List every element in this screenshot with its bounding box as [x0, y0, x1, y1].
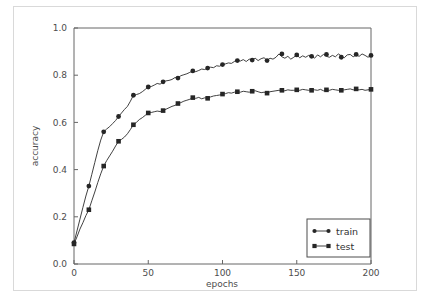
- legend-marker-test-right: [326, 244, 330, 248]
- data-point-marker: [86, 184, 91, 189]
- data-point-marker: [146, 111, 151, 116]
- data-point-marker: [101, 129, 106, 134]
- data-point-marker: [309, 54, 314, 59]
- data-point-marker: [265, 91, 270, 96]
- x-tick-label: 100: [214, 268, 231, 278]
- data-point-marker: [190, 69, 195, 74]
- x-tick-label: 0: [71, 268, 77, 278]
- data-point-marker: [176, 101, 181, 106]
- y-tick-label: 0.4: [53, 165, 68, 175]
- y-axis-label: accuracy: [30, 125, 40, 166]
- data-point-marker: [220, 92, 225, 97]
- y-tick-label: 0.6: [53, 118, 68, 128]
- data-point-marker: [250, 89, 255, 94]
- data-point-marker: [131, 122, 136, 127]
- data-point-marker: [324, 52, 329, 57]
- chart-legend[interactable]: train test: [307, 219, 370, 257]
- data-point-marker: [294, 53, 299, 58]
- legend-marker-train-right: [326, 229, 330, 233]
- data-point-marker: [87, 207, 92, 212]
- data-point-marker: [205, 66, 210, 71]
- data-point-marker: [235, 89, 240, 94]
- x-axis-ticks: 050100150200: [71, 260, 380, 278]
- data-point-marker: [309, 88, 314, 93]
- data-point-marker: [294, 88, 299, 93]
- data-point-marker: [339, 55, 344, 60]
- data-point-marker: [161, 108, 166, 113]
- y-tick-label: 0.8: [53, 70, 68, 80]
- data-point-marker: [280, 88, 285, 93]
- data-point-marker: [324, 88, 329, 93]
- legend-label-train: train: [336, 226, 358, 237]
- accuracy-vs-epochs-chart: 0.00.20.40.60.81.0 050100150200 epochs a…: [14, 7, 418, 292]
- x-axis-label: epochs: [206, 279, 238, 289]
- x-tick-label: 50: [143, 268, 155, 278]
- data-point-marker: [161, 79, 166, 84]
- data-point-marker: [101, 164, 106, 169]
- legend-marker-train-left: [312, 229, 316, 233]
- marker-layer: [72, 52, 374, 247]
- data-point-marker: [131, 93, 136, 98]
- data-point-marker: [235, 58, 240, 63]
- legend-label-test: test: [336, 241, 355, 252]
- data-point-marker: [265, 58, 270, 63]
- series-markers-train: [72, 52, 374, 246]
- data-point-marker: [176, 76, 181, 81]
- x-tick-label: 150: [288, 268, 305, 278]
- data-point-marker: [354, 52, 359, 57]
- data-point-marker: [72, 242, 77, 247]
- data-point-marker: [369, 87, 374, 92]
- y-tick-label: 1.0: [53, 23, 68, 33]
- data-point-marker: [220, 62, 225, 67]
- data-point-marker: [116, 114, 121, 119]
- legend-marker-test-left: [312, 244, 316, 248]
- y-tick-label: 0.2: [53, 212, 67, 222]
- data-point-marker: [146, 85, 151, 90]
- y-tick-label: 0.0: [53, 259, 68, 269]
- data-point-marker: [369, 53, 374, 58]
- data-point-marker: [354, 87, 359, 92]
- series-layer: [74, 54, 371, 244]
- x-tick-label: 200: [362, 268, 379, 278]
- data-point-marker: [116, 139, 121, 144]
- data-point-marker: [339, 88, 344, 93]
- data-point-marker: [250, 58, 255, 63]
- data-point-marker: [191, 95, 196, 100]
- data-point-marker: [205, 96, 210, 101]
- figure-card: 0.00.20.40.60.81.0 050100150200 epochs a…: [13, 6, 417, 291]
- data-point-marker: [280, 52, 285, 57]
- series-line-train: [74, 54, 371, 243]
